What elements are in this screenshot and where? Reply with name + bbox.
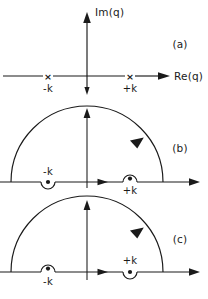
- panel-c-imaginary-axis-arrowhead: [84, 200, 91, 210]
- panel-c-pole-dot-plus-k: [128, 270, 132, 274]
- panel-a-real-axis-arrowhead: [158, 72, 170, 80]
- panel-b-group: -k +k (b): [0, 106, 200, 196]
- panel-a-pole-marker-plus-k: ×: [126, 71, 134, 82]
- panel-a-group: × × -k +k Im(q) Re(q) (a): [3, 6, 203, 95]
- panel-a-imaginary-axis-arrowhead: [83, 12, 91, 23]
- panel-a-imaginary-axis-tail-tick: [84, 87, 89, 95]
- real-axis-label: Re(q): [174, 70, 203, 82]
- panel-c-contour-direction-arrowhead: [130, 228, 144, 239]
- panel-b-real-axis-arrowhead: [189, 178, 200, 185]
- panel-c-label-minus-k: -k: [43, 276, 53, 287]
- panel-b-caption: (b): [172, 142, 187, 154]
- panel-b-label-plus-k: +k: [123, 185, 138, 196]
- panel-c-real-axis-direction-arrowhead: [98, 269, 109, 276]
- panel-b-imaginary-axis-arrowhead: [84, 108, 91, 118]
- contour-figure: × × -k +k Im(q) Re(q) (a): [0, 0, 208, 299]
- panel-c-pole-dot-minus-k: [46, 267, 50, 271]
- imaginary-axis-label: Im(q): [95, 6, 124, 18]
- panel-c-group: -k +k (c): [0, 196, 200, 287]
- panel-b-label-minus-k: -k: [43, 166, 53, 177]
- panel-b-contour-direction-arrowhead: [130, 138, 144, 149]
- panel-a-caption: (a): [172, 38, 187, 50]
- figure-canvas: × × -k +k Im(q) Re(q) (a): [0, 0, 208, 299]
- panel-a-pole-marker-minus-k: ×: [44, 71, 52, 82]
- panel-a-label-plus-k: +k: [123, 83, 138, 94]
- panel-a-label-minus-k: -k: [43, 83, 53, 94]
- panel-c-label-plus-k: +k: [123, 255, 138, 266]
- panel-c-real-axis-arrowhead: [189, 268, 200, 275]
- panel-b-pole-dot-plus-k: [128, 177, 132, 181]
- panel-b-real-axis-direction-arrowhead: [98, 179, 109, 186]
- panel-b-pole-dot-minus-k: [46, 180, 50, 184]
- panel-c-caption: (c): [173, 233, 188, 245]
